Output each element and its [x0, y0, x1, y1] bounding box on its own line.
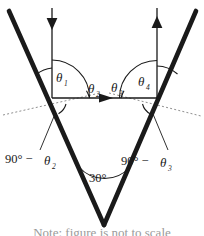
- theta2-subscript: 2: [96, 90, 100, 99]
- refraction-angle-diagram: θ 1 θ 2 θ 3 θ 4 90° − θ 2 90° − θ 3 30°: [0, 0, 204, 236]
- figure-caption-cutoff: Note: figure is not to scale: [0, 225, 204, 236]
- theta1-label: θ: [56, 70, 63, 85]
- left-complement-theta: θ: [44, 153, 51, 168]
- apex-angle-label: 30°: [89, 171, 107, 185]
- theta3-label: θ: [111, 80, 118, 95]
- theta3-subscript: 3: [118, 89, 123, 98]
- theta2-label: θ: [88, 81, 95, 96]
- theta1-subscript: 1: [64, 79, 68, 88]
- right-complement-prefix: 90° −: [121, 154, 149, 168]
- theta4-label: θ: [138, 74, 145, 89]
- left-complement-subscript: 2: [52, 162, 56, 171]
- figure-caption-text: Note: figure is not to scale: [0, 226, 204, 236]
- right-complement-subscript: 3: [167, 164, 172, 173]
- figure-background: [0, 0, 204, 236]
- left-complement-prefix: 90° −: [5, 152, 33, 166]
- theta4-subscript: 4: [146, 83, 150, 92]
- right-complement-theta: θ: [160, 155, 167, 170]
